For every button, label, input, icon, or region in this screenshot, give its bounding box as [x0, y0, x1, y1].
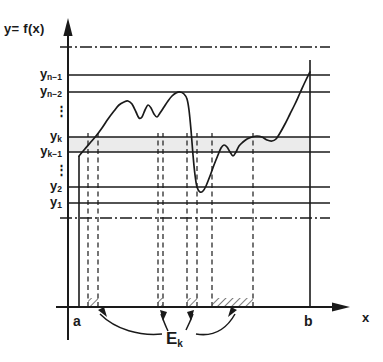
y-tick-base: y: [40, 143, 47, 158]
ek-arrowheads: [98, 307, 237, 321]
y-tick-subscript: 2: [57, 184, 62, 194]
ek-base: E: [166, 329, 177, 348]
band-fill: [68, 137, 310, 152]
preimage-intervals: [88, 298, 253, 307]
preimage-interval: [187, 298, 197, 307]
y-axis-arrowhead: [63, 18, 72, 36]
y-tick-subscript: n−1: [47, 72, 62, 82]
preimage-interval: [212, 298, 253, 307]
x-axis-title: x: [362, 311, 370, 324]
y-tick-subscript: 1: [57, 200, 62, 210]
x-axis-arrowhead: [332, 302, 350, 311]
y-tick-label: yk−1: [18, 144, 62, 157]
right-endpoint-label: b: [304, 314, 313, 328]
vdots-lower: ⋮: [55, 163, 68, 176]
level-band: [68, 137, 310, 152]
y-tick-label: yk: [18, 129, 62, 142]
y-tick-subscript: k−1: [48, 149, 62, 159]
y-tick-label: y2: [18, 179, 62, 192]
left-endpoint-label: a: [73, 314, 81, 328]
y-tick-label: yn−2: [18, 84, 62, 97]
preimage-interval: [88, 298, 98, 307]
y-tick-subscript: k: [57, 134, 62, 144]
y-tick-label: yn−1: [18, 67, 62, 80]
y-tick-subscript: n−2: [47, 89, 62, 99]
function-curve: [79, 72, 310, 192]
y-axis-title: y= f(x): [4, 22, 45, 35]
projection-drop-lines: [88, 133, 253, 307]
vdots-upper: ⋮: [55, 104, 68, 117]
preimage-interval: [158, 298, 163, 307]
y-tick-label: y1: [18, 195, 62, 208]
figure-canvas: y= f(x) x a b Ek ⋮ ⋮ yn−1yn−2ykyk−1y2y1: [0, 0, 383, 362]
ek-set-label: Ek: [166, 330, 183, 347]
dashdot-lines: [60, 47, 330, 218]
ek-subscript: k: [177, 338, 183, 349]
